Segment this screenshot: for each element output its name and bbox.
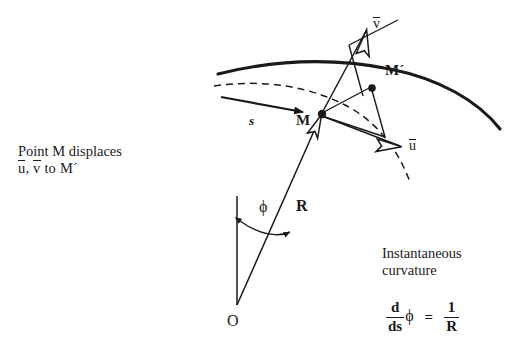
vector-u-label: u xyxy=(409,138,416,154)
caption-vector-u: u xyxy=(18,160,25,177)
caption-line-2: u, v to M´ xyxy=(18,160,122,177)
caption-comma: , xyxy=(25,160,29,176)
point-m-prime-marker xyxy=(368,84,376,92)
caption-vector-v: v xyxy=(33,160,40,177)
note-line-1: Instantaneous xyxy=(382,245,462,262)
caption-block: Point M displaces u, v to M´ xyxy=(18,143,122,176)
equals-sign: = xyxy=(425,309,434,326)
origin-label: O xyxy=(227,312,239,330)
curvature-equation: d ds ϕ = 1 R xyxy=(386,300,459,335)
caption-line-1: Point M displaces xyxy=(18,143,122,160)
deformed-axis-curve xyxy=(218,62,500,129)
radius-line xyxy=(237,113,322,305)
point-m-prime-label: M´ xyxy=(385,62,404,79)
arc-length-arrow xyxy=(221,97,303,112)
vector-u-arrowhead xyxy=(376,139,402,152)
lhs-numerator: d xyxy=(389,300,401,317)
point-m-marker xyxy=(318,110,326,118)
vector-v-arrowhead xyxy=(356,30,369,57)
lhs-denominator: ds xyxy=(386,318,404,335)
note-line-2: curvature xyxy=(382,262,462,279)
point-m-label: M xyxy=(296,112,310,129)
angle-phi-label: ϕ xyxy=(259,198,267,216)
vector-v-label: v xyxy=(373,16,380,32)
rhs-numerator: 1 xyxy=(446,300,458,317)
parallelogram-edge-right xyxy=(371,87,385,137)
rhs-denominator: R xyxy=(444,318,459,335)
angle-phi-arc xyxy=(240,221,290,235)
note-block: Instantaneous curvature xyxy=(382,245,462,278)
equation-phi: ϕ xyxy=(405,307,413,325)
curvature-diagram: Point M displaces u, v to M´ s M M´ v u … xyxy=(0,0,526,363)
lhs-fraction: d ds xyxy=(386,300,404,335)
rhs-fraction: 1 R xyxy=(444,300,459,335)
radius-label: R xyxy=(296,197,308,215)
arc-length-label: s xyxy=(249,113,254,129)
caption-tail: to M´ xyxy=(44,160,78,176)
